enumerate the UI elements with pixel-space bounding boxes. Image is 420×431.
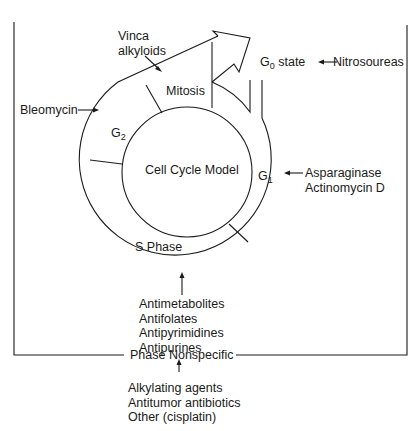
- nonspecific-agent-3: Other (cisplatin): [128, 410, 241, 425]
- divider-g2-s: [90, 160, 122, 164]
- s-agent-1: Antimetabolites: [139, 297, 224, 312]
- g2-main: G: [111, 126, 121, 140]
- g0-state-label: G0 state: [260, 55, 305, 69]
- nitrosoureas-label: Nitrosoureas: [333, 55, 404, 69]
- s-agent-2: Antifolates: [139, 312, 224, 327]
- vinca-line-2: alkyloids: [118, 44, 166, 59]
- cycle-arrowhead: [212, 31, 250, 82]
- bleomycin-label: Bleomycin: [20, 103, 78, 117]
- g2-label: G2: [111, 126, 126, 140]
- g1-label: G1: [258, 169, 273, 183]
- vinca-line-1: Vinca: [118, 29, 166, 44]
- frame-left-line: [14, 22, 124, 355]
- g0-branch-arc: [212, 80, 250, 112]
- nonspecific-agent-2: Antitumor antibiotics: [128, 396, 241, 411]
- s-phase-label: S Phase: [135, 240, 182, 254]
- g1-sub: 1: [268, 175, 273, 185]
- divider-s-g1: [229, 224, 248, 242]
- divider-mitosis-g2: [146, 85, 162, 113]
- g2-sub: 2: [121, 132, 126, 142]
- vinca-alkyloids-label: Vinca alkyloids: [118, 29, 166, 58]
- g1-agent-1: Asparaginase: [305, 166, 385, 181]
- phase-nonspecific-label: Phase Nonspecific: [130, 348, 234, 362]
- cell-cycle-model-title: Cell Cycle Model: [145, 163, 239, 177]
- mitosis-label: Mitosis: [166, 84, 205, 98]
- nonspecific-agent-1: Alkylating agents: [128, 381, 241, 396]
- g0-main: G: [260, 55, 270, 69]
- g0-suffix: state: [275, 55, 306, 69]
- nonspecific-agents-label: Alkylating agents Antitumor antibiotics …: [128, 381, 241, 425]
- outer-ring: [79, 36, 271, 255]
- g1-agents-label: Asparaginase Actinomycin D: [305, 166, 385, 195]
- g1-main: G: [258, 169, 268, 183]
- s-phase-agents-label: Antimetabolites Antifolates Antipyrimidi…: [139, 297, 224, 355]
- s-agent-3: Antipyrimidines: [139, 326, 224, 341]
- g1-agent-2: Actinomycin D: [305, 181, 385, 196]
